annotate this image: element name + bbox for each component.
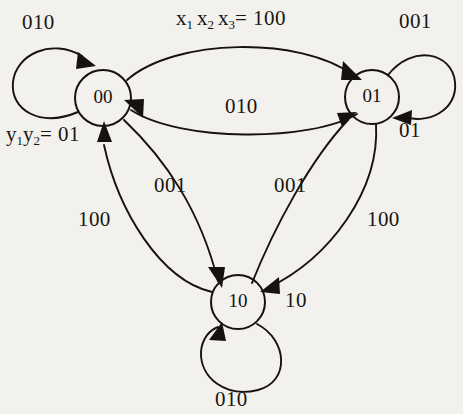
state-node-10[interactable]: 10 — [211, 275, 265, 329]
edge-label-01-selfloop-001: 001 — [399, 11, 432, 32]
edge-label-00-selfloop-010: 010 — [22, 12, 55, 33]
edge-label-10-output-10: 10 — [285, 290, 307, 311]
state-label-01: 01 — [363, 85, 382, 106]
edge-10-to-00[interactable] — [97, 121, 212, 292]
state-variables-equation: y1y2= 01 — [6, 124, 80, 147]
arrowhead-10-to-01 — [337, 112, 357, 127]
state-var-y2: y2 — [23, 122, 40, 146]
input-var-x2-subscript: 2 — [208, 17, 215, 32]
edge-00-to-00-selfloop[interactable] — [13, 48, 96, 118]
state-diagram-canvas: 00 01 10 010 x1x2x3= 100 001 010 y1y2= 0… — [0, 0, 463, 414]
input-variables-equation: x1x2x3= 100 — [176, 8, 286, 31]
edge-label-01-output-01: 01 — [399, 120, 421, 141]
input-var-x1-subscript: 1 — [187, 17, 194, 32]
input-var-x1: x1 — [176, 6, 193, 30]
edge-label-10-to-00-100: 100 — [78, 209, 111, 230]
edge-path-10-to-01 — [252, 120, 348, 283]
edge-label-01-to-10-100: 100 — [367, 209, 400, 230]
state-equation-value: = 01 — [40, 122, 80, 146]
edge-path-10-selfloop — [201, 324, 281, 392]
edge-path-00-to-10 — [124, 120, 218, 281]
arrowhead-00-selfloop — [76, 52, 96, 69]
edge-label-00-to-10-001: 001 — [154, 175, 187, 196]
state-label-10: 10 — [229, 290, 248, 311]
edge-00-to-01-top[interactable] — [127, 47, 362, 80]
edge-label-10-selfloop-010: 010 — [215, 389, 248, 410]
arrowhead-00-to-01 — [341, 61, 362, 80]
input-equation-value: = 100 — [235, 6, 286, 30]
edge-path-00-selfloop — [13, 48, 82, 118]
input-var-x2: x2 — [197, 6, 214, 30]
state-label-00: 00 — [94, 86, 113, 107]
edge-path-00-to-01 — [127, 47, 353, 80]
state-node-00[interactable]: 00 — [75, 70, 131, 126]
edge-10-to-10-selfloop[interactable] — [201, 322, 281, 392]
edge-01-to-10[interactable] — [260, 124, 376, 294]
arrowhead-01-to-00 — [124, 99, 144, 118]
state-node-01[interactable]: 01 — [345, 70, 399, 124]
edge-label-01-to-00-010: 010 — [225, 96, 258, 117]
edge-00-to-10[interactable] — [124, 120, 225, 288]
edge-label-10-to-01-001: 001 — [274, 175, 307, 196]
edge-path-01-to-10 — [268, 124, 376, 288]
state-var-y1: y1 — [6, 122, 23, 146]
edge-10-to-01[interactable] — [252, 112, 357, 283]
input-var-x3: x3 — [218, 6, 235, 30]
